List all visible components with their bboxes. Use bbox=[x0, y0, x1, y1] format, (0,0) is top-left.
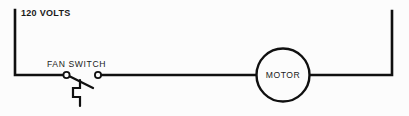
fan-switch-label: FAN SWITCH bbox=[47, 59, 106, 69]
circuit-diagram: 120 VOLTS FAN SWITCH MOTOR bbox=[0, 0, 409, 116]
supply-voltage-label: 120 VOLTS bbox=[21, 8, 71, 18]
motor-to-return-conductor bbox=[310, 11, 392, 75]
motor-label: MOTOR bbox=[266, 70, 300, 80]
fan-switch-right-contact bbox=[95, 72, 101, 78]
fan-switch-left-contact bbox=[63, 72, 69, 78]
circuit-schematic-canvas: 120 VOLTS FAN SWITCH MOTOR bbox=[0, 0, 409, 116]
fan-switch-actuator-linkage bbox=[73, 80, 80, 106]
